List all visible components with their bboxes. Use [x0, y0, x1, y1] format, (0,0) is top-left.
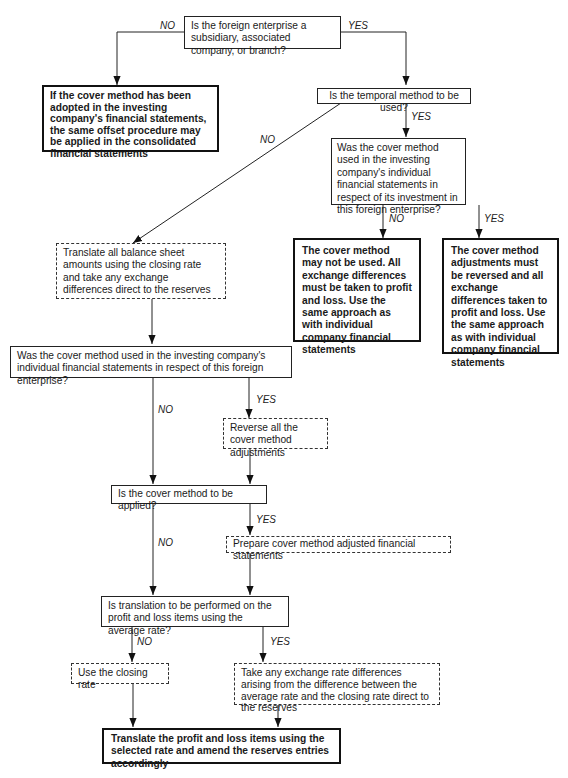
- node-q-cover-investment: Was the cover method used in the investi…: [331, 138, 466, 205]
- node-end-reversed: The cover method adjustments must be rev…: [442, 238, 559, 354]
- node-act-prepare: Prepare cover method adjusted financial …: [226, 536, 451, 553]
- label-yes-cover-investment: YES: [484, 213, 504, 224]
- label-yes-average-rate: YES: [270, 636, 290, 647]
- label-no-cover-enterprise: NO: [158, 404, 173, 415]
- node-act-take-differences: Take any exchange rate differences arisi…: [234, 663, 440, 705]
- node-act-reverse: Reverse all the cover method adjustments: [223, 418, 328, 449]
- node-end-not-used: The cover method may not be used. All ex…: [293, 238, 421, 342]
- node-q-temporal: Is the temporal method to be used?: [317, 88, 471, 104]
- node-act-closing-rate: Use the closing rate: [71, 663, 169, 684]
- label-yes-temporal: YES: [411, 111, 431, 122]
- node-end-offset: If the cover method has been adopted in …: [42, 85, 219, 152]
- label-no-subsidiary: NO: [160, 20, 175, 31]
- label-yes-subsidiary: YES: [348, 20, 368, 31]
- label-no-average-rate: NO: [137, 636, 152, 647]
- node-q-cover-enterprise: Was the cover method used in the investi…: [10, 346, 292, 378]
- label-no-cover-apply: NO: [158, 537, 173, 548]
- node-q-average-rate: Is translation to be performed on the pr…: [101, 596, 289, 627]
- label-no-temporal: NO: [260, 134, 275, 145]
- node-q-subsidiary: Is the foreign enterprise a subsidiary, …: [184, 16, 341, 49]
- label-yes-cover-apply: YES: [256, 514, 276, 525]
- node-q-cover-apply: Is the cover method to be applied?: [111, 485, 267, 504]
- label-no-cover-investment: NO: [389, 213, 404, 224]
- label-yes-cover-enterprise: YES: [256, 394, 276, 405]
- node-act-translate-balance: Translate all balance sheet amounts usin…: [56, 243, 226, 299]
- node-end-translate-pl: Translate the profit and loss items usin…: [102, 728, 341, 764]
